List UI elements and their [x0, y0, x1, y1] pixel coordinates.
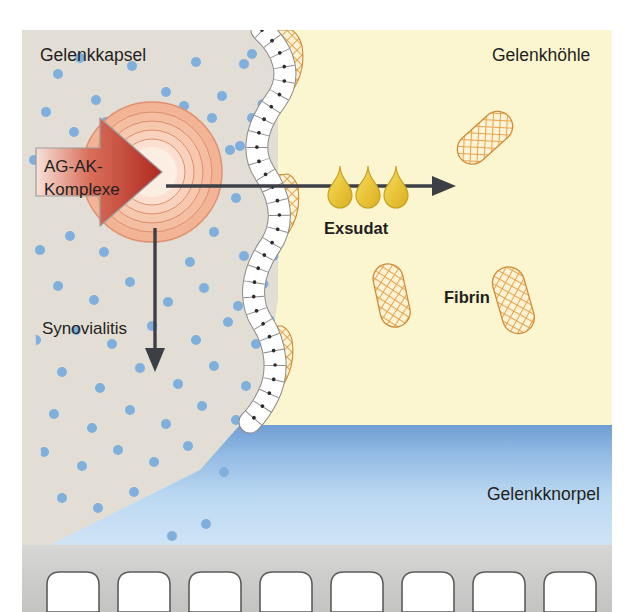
label-synovialitis: Synovialitis	[42, 319, 127, 338]
diagram-canvas: Gelenkkapsel Gelenkhöhle Synovialitis Ex…	[0, 0, 629, 612]
label-joint-capsule: Gelenkkapsel	[40, 45, 146, 65]
label-immune-complex-line1: AG-AK-	[44, 157, 103, 176]
label-exudate: Exsudat	[324, 219, 389, 237]
label-immune-complex-line2: Komplexe	[44, 180, 120, 199]
joint-pathology-illustration: Gelenkkapsel Gelenkhöhle Synovialitis Ex…	[0, 0, 629, 612]
label-articular-cartilage: Gelenkknorpel	[487, 484, 600, 504]
label-fibrin: Fibrin	[444, 288, 490, 306]
subchondral-bone-region	[22, 545, 612, 612]
label-joint-cavity: Gelenkhöhle	[492, 45, 590, 65]
exudate-droplet-group	[328, 166, 408, 208]
